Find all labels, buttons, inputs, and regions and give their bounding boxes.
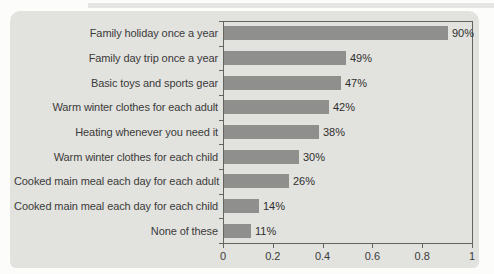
- y-axis-tick: [219, 144, 223, 145]
- x-tick-label: 0.6: [365, 250, 380, 262]
- y-axis-tick: [219, 21, 223, 22]
- category-label: Cooked main meal each day for each child: [14, 200, 218, 212]
- value-label: 11%: [255, 225, 276, 237]
- chart-card: Family holiday once a year90%Family day …: [10, 11, 479, 268]
- bar: [224, 199, 259, 213]
- value-label: 30%: [303, 151, 325, 163]
- category-label: Warm winter clothes for each child: [14, 151, 218, 163]
- value-label: 90%: [452, 27, 474, 39]
- y-axis-tick: [219, 194, 223, 195]
- x-axis-tick: [323, 244, 324, 248]
- value-label: 14%: [263, 200, 285, 212]
- x-axis-tick: [223, 244, 224, 248]
- category-label: Cooked main meal each day for each adult: [14, 175, 218, 187]
- value-label: 49%: [350, 52, 372, 64]
- x-axis-tick: [422, 244, 423, 248]
- bar: [224, 26, 448, 40]
- y-axis-tick: [219, 169, 223, 170]
- category-label: Heating whenever you need it: [14, 126, 218, 138]
- value-label: 47%: [345, 77, 367, 89]
- x-tick-label: 0.4: [315, 250, 330, 262]
- value-label: 38%: [323, 126, 345, 138]
- value-label: 26%: [293, 175, 315, 187]
- category-label: Basic toys and sports gear: [14, 77, 218, 89]
- category-label: Family day trip once a year: [14, 52, 218, 64]
- y-axis-tick: [219, 70, 223, 71]
- y-axis-tick: [219, 46, 223, 47]
- x-tick-label: 0.8: [415, 250, 430, 262]
- y-axis-tick: [219, 120, 223, 121]
- bar: [224, 174, 289, 188]
- x-axis-tick: [472, 244, 473, 248]
- bar: [224, 51, 346, 65]
- chart-figure: Family holiday once a year90%Family day …: [0, 0, 494, 274]
- value-label: 42%: [333, 101, 355, 113]
- x-axis-tick: [372, 244, 373, 248]
- x-tick-label: 0.2: [265, 250, 280, 262]
- bar: [224, 100, 329, 114]
- x-axis-tick: [273, 244, 274, 248]
- y-axis-tick: [219, 95, 223, 96]
- bar: [224, 76, 341, 90]
- category-label: Family holiday once a year: [14, 27, 218, 39]
- bar: [224, 150, 299, 164]
- category-label: None of these: [14, 225, 218, 237]
- scan-edge-artifact: [88, 3, 494, 8]
- x-tick-label: 0: [220, 250, 226, 262]
- category-label: Warm winter clothes for each adult: [14, 101, 218, 113]
- bar: [224, 125, 319, 139]
- x-tick-label: 1: [469, 250, 475, 262]
- y-axis-tick: [219, 218, 223, 219]
- bar: [224, 224, 251, 238]
